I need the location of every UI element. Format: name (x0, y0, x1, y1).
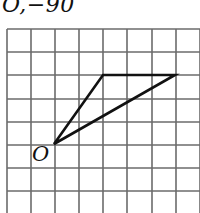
triangle (54, 75, 175, 144)
origin-label: O (32, 142, 49, 166)
grid-lines (7, 29, 200, 213)
grid-diagram (0, 0, 200, 213)
